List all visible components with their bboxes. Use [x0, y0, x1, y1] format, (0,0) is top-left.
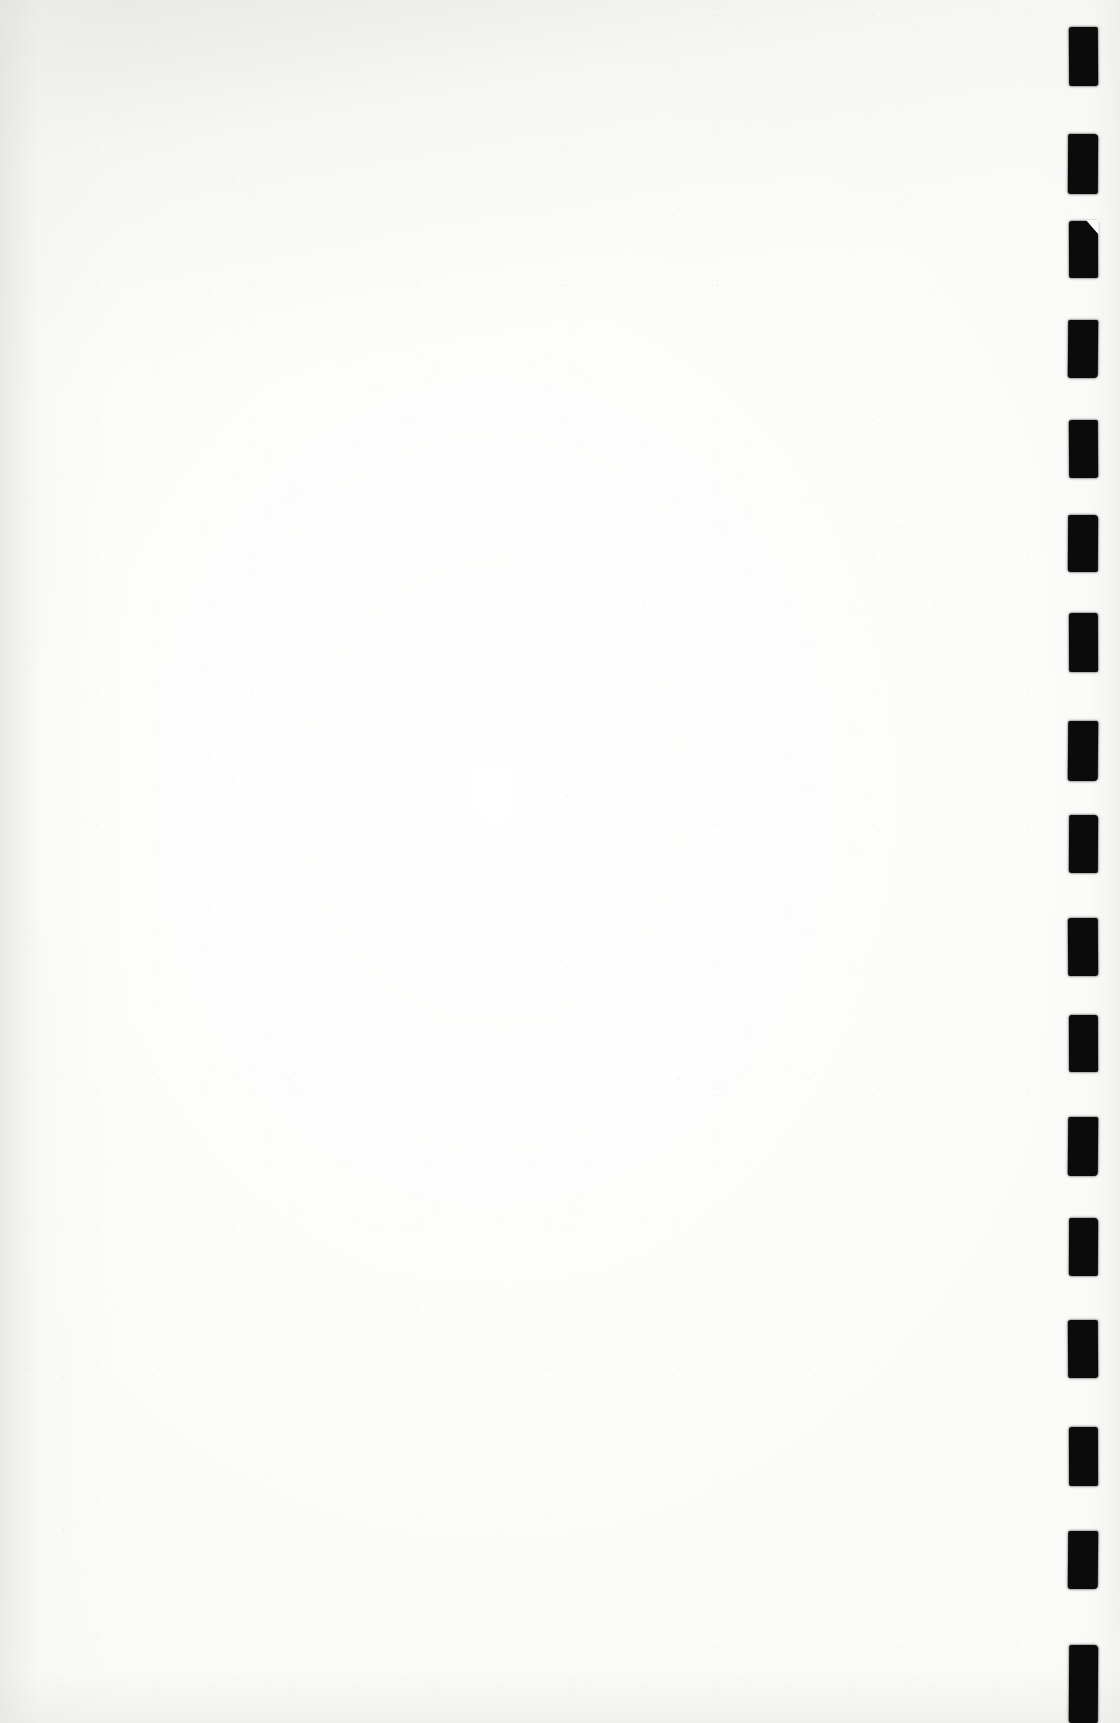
register-mark: [1068, 721, 1098, 781]
paper-right-edge-shadow: [0, 0, 1120, 1723]
register-mark: [1069, 221, 1098, 278]
register-mark-notch: [1086, 220, 1099, 235]
register-mark: [1068, 515, 1098, 572]
register-mark: [1069, 1427, 1098, 1486]
register-mark: [1069, 1645, 1098, 1723]
paper-grain-texture: [0, 0, 1120, 1723]
register-mark: [1068, 1320, 1098, 1378]
page-body-text: [0, 0, 1, 1]
register-mark: [1069, 613, 1098, 672]
register-mark: [1069, 1015, 1098, 1072]
register-mark: [1069, 420, 1098, 478]
paper-left-edge-shadow: [0, 0, 1120, 1723]
register-mark-column: [1060, 0, 1110, 1723]
register-mark: [1069, 27, 1098, 86]
register-mark: [1068, 918, 1098, 976]
paper-bottom-edge-shadow: [0, 0, 1120, 1723]
register-mark: [1068, 1117, 1098, 1176]
register-mark: [1068, 134, 1098, 194]
paper-top-edge-shadow: [0, 0, 1120, 1723]
register-mark: [1069, 1218, 1098, 1276]
scanned-page: [0, 0, 1120, 1723]
register-mark: [1068, 320, 1098, 378]
register-mark: [1068, 1531, 1098, 1589]
register-mark: [1069, 815, 1098, 873]
paper-center-highlight: [0, 0, 1120, 1723]
